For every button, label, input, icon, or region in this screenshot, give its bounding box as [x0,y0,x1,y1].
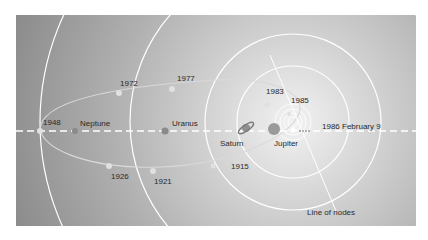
label-1921: 1921 [154,177,172,186]
uranus-icon [162,128,169,135]
label-1985: 1985 [291,96,309,105]
label-1983: 1983 [266,87,284,96]
label-1926: 1926 [111,172,129,181]
diagram-background [16,15,416,226]
label-1977: 1977 [177,74,195,83]
label-uranus: Uranus [172,119,198,128]
label-neptune: Neptune [80,119,111,128]
label-1948: 1948 [43,118,61,127]
sun-icon [291,128,296,133]
label-jupiter: Jupiter [274,139,298,148]
label-saturn: Saturn [220,139,244,148]
label-1986-february-9: 1986 February 9 [322,122,381,131]
label-1915: 1915 [231,162,249,171]
neptune-icon [72,128,78,134]
label-1972: 1972 [120,79,138,88]
jupiter-icon [268,123,280,135]
orbit-diagram: Neptune Uranus Saturn Jupiter 1948 1972 … [16,15,416,226]
orbit-diagram-panel: Neptune Uranus Saturn Jupiter 1948 1972 … [16,15,416,226]
label-line-of-nodes: Line of nodes [307,208,355,217]
